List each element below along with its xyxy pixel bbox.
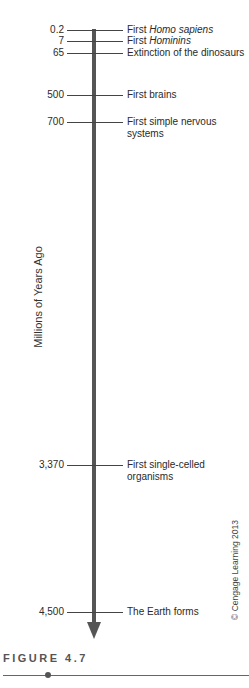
- tick-value: 700: [47, 116, 64, 128]
- event-label-text: First: [127, 35, 149, 46]
- tick-value: 7: [58, 35, 64, 47]
- tick-mark: [67, 612, 123, 613]
- event-label: First brains: [127, 89, 245, 101]
- copyright-credit: © Cengage Learning 2013: [230, 520, 240, 620]
- timeline-event: 0.2First Homo sapiens: [0, 30, 249, 31]
- tick-value: 65: [53, 47, 64, 59]
- event-label: First Hominins: [127, 35, 245, 47]
- event-label-italic: Homo sapiens: [149, 24, 213, 35]
- tick-mark: [67, 53, 123, 54]
- timeline-axis-line: [92, 29, 96, 625]
- tick-mark: [67, 122, 123, 123]
- event-label-text: Extinction of the dinosaurs: [127, 47, 244, 58]
- timeline-event: 700First simple nervous systems: [0, 122, 249, 123]
- timeline-event: 65Extinction of the dinosaurs: [0, 53, 249, 54]
- event-label: First single-celled organisms: [127, 459, 245, 482]
- caption-dot-ornament: [45, 672, 51, 678]
- y-axis-label: Millions of Years Ago: [32, 246, 44, 348]
- tick-mark: [67, 465, 123, 466]
- event-label-text: First simple nervous systems: [127, 116, 216, 139]
- event-label-text: The Earth forms: [127, 606, 199, 617]
- tick-value: 4,500: [39, 606, 64, 618]
- arrow-down-icon: [87, 622, 101, 639]
- timeline-event: 500First brains: [0, 95, 249, 96]
- timeline-event: 7First Hominins: [0, 41, 249, 42]
- event-label-text: First brains: [127, 89, 176, 100]
- event-label: First Homo sapiens: [127, 24, 245, 36]
- event-label-italic: Hominins: [149, 35, 191, 46]
- timeline-event: 3,370First single-celled organisms: [0, 465, 249, 466]
- event-label: Extinction of the dinosaurs: [127, 47, 245, 59]
- event-label-text: First: [127, 24, 149, 35]
- event-label: First simple nervous systems: [127, 116, 245, 139]
- tick-value: 3,370: [39, 459, 64, 471]
- tick-mark: [67, 41, 123, 42]
- timeline-event: 4,500The Earth forms: [0, 612, 249, 613]
- tick-mark: [67, 95, 123, 96]
- figure-caption: FIGURE 4.7: [3, 652, 88, 664]
- caption-divider: [3, 675, 249, 676]
- tick-mark: [67, 30, 123, 31]
- tick-value: 500: [47, 89, 64, 101]
- event-label-text: First single-celled organisms: [127, 459, 205, 482]
- event-label: The Earth forms: [127, 606, 245, 618]
